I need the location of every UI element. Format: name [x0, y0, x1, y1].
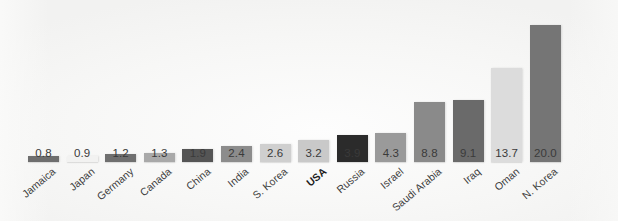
category-label: Russia [334, 165, 367, 195]
bar-value-label: 4.3 [383, 147, 399, 159]
bar-value-label: 1.3 [151, 147, 167, 159]
bar-value-label: 2.4 [228, 147, 244, 159]
category-label: China [183, 165, 212, 192]
bar-value-label: 0.9 [74, 147, 90, 159]
bar-chart: 0.8Jamaica0.9Japan1.2Germany1.3Canada1.9… [0, 0, 618, 221]
category-label: Canada [137, 165, 173, 198]
bar-value-label: 9.1 [460, 147, 476, 159]
bar-value-label: 1.9 [190, 147, 206, 159]
category-label: N. Korea [520, 165, 560, 201]
category-label: Iraq [461, 165, 483, 186]
category-label: Jamaica [20, 165, 58, 200]
category-label: USA [303, 165, 328, 189]
bar[interactable] [530, 25, 561, 162]
category-label: Germany [94, 165, 135, 202]
category-label: S. Korea [250, 165, 290, 201]
bar-value-label: 13.7 [495, 147, 518, 159]
bar-value-label: 0.8 [35, 147, 51, 159]
category-label: India [225, 165, 251, 189]
bar-value-label: 20.0 [534, 147, 557, 159]
category-label: Oman [491, 165, 521, 193]
bar-value-label: 3.9 [344, 147, 360, 159]
category-label: Japan [67, 165, 97, 193]
bar-value-label: 2.6 [267, 147, 283, 159]
plot-area: 0.8Jamaica0.9Japan1.2Germany1.3Canada1.9… [0, 0, 618, 221]
bar-value-label: 8.8 [421, 147, 437, 159]
bar-value-label: 1.2 [113, 147, 129, 159]
category-label: Israel [378, 165, 406, 191]
bar-value-label: 3.2 [306, 147, 322, 159]
